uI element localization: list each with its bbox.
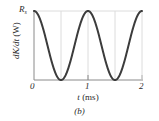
y-axis-units: (W): [11, 22, 21, 37]
gridlines: [34, 11, 142, 80]
plot-area: 0 1 2 Rs: [0, 0, 159, 95]
x-axis-units: (ms): [82, 92, 99, 102]
x-axis-title: t (ms): [34, 93, 142, 102]
figure-caption: (b): [0, 107, 159, 116]
y-axis-title-symbol: dK/dt: [11, 39, 21, 59]
x-tick-label-1: 1: [85, 82, 90, 91]
y-axis-title: dK/dt (W): [12, 1, 21, 81]
y-peak-label-subscript: s: [25, 9, 27, 15]
figure-panel-b: 0 1 2 Rs dK/dt (W) t (ms) (b): [0, 0, 159, 121]
x-tick-label-2: 2: [139, 82, 144, 91]
x-axis-title-symbol: t: [77, 92, 80, 102]
x-tick-label-0: 0: [30, 82, 35, 91]
